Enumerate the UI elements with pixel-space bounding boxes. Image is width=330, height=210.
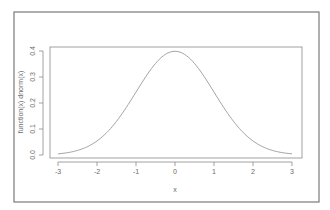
y-tick-label: 0.3 bbox=[29, 72, 36, 82]
y-tick-label: 0.2 bbox=[29, 98, 36, 108]
x-tick-label: 1 bbox=[212, 168, 216, 175]
density-plot: 0.00.10.20.30.4 -3-2-10123 x function(x)… bbox=[0, 0, 330, 210]
y-axis-title: function(x) dnorm(x) bbox=[17, 71, 25, 134]
y-axis: 0.00.10.20.30.4 bbox=[29, 46, 43, 160]
y-tick-label: 0.0 bbox=[29, 150, 36, 160]
x-tick-label: -3 bbox=[55, 168, 61, 175]
density-curve bbox=[58, 51, 292, 154]
x-tick-label: -1 bbox=[133, 168, 139, 175]
plot-box bbox=[50, 47, 302, 158]
x-tick-label: -2 bbox=[94, 168, 100, 175]
y-tick-label: 0.1 bbox=[29, 124, 36, 134]
x-tick-label: 0 bbox=[173, 168, 177, 175]
x-axis: -3-2-10123 bbox=[55, 162, 294, 175]
y-tick-label: 0.4 bbox=[29, 46, 36, 56]
x-tick-label: 2 bbox=[251, 168, 255, 175]
x-tick-label: 3 bbox=[290, 168, 294, 175]
x-axis-title: x bbox=[173, 186, 177, 193]
